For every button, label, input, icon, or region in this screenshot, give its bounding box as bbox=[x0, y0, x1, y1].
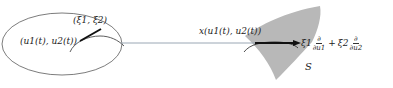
surface-name-text: S bbox=[305, 61, 312, 72]
domain-vector-text: (ξ1, ξ2) bbox=[73, 15, 107, 25]
tangent-vector-diagram: (u1(t), u2(t)) (ξ1, ξ2) x(u1(t), u2(t)) … bbox=[0, 0, 393, 88]
partial-u1-den: ∂u1 bbox=[313, 44, 326, 52]
domain-point-text: (u1(t), u2(t)) bbox=[20, 36, 77, 46]
domain-tangent-vector bbox=[80, 29, 101, 41]
surface-point-text: x(u1(t), u2(t)) bbox=[199, 26, 261, 36]
surface-point-label: x(u1(t), u2(t)) bbox=[199, 27, 261, 36]
partial-u2-den: ∂u2 bbox=[350, 44, 363, 52]
partial-u2: ∂ ∂u2 bbox=[350, 35, 363, 52]
coef-1: ξ1 bbox=[301, 39, 312, 48]
surface-vector-label: ξ1 ∂ ∂u1 + ξ2 ∂ ∂u2 bbox=[301, 35, 363, 52]
plus-operator: + bbox=[328, 39, 336, 48]
coef-2: ξ2 bbox=[338, 39, 349, 48]
partial-u1: ∂ ∂u1 bbox=[313, 35, 326, 52]
partial-u2-num: ∂ bbox=[353, 35, 359, 44]
surface-name-label: S bbox=[305, 62, 312, 72]
domain-vector-label: (ξ1, ξ2) bbox=[73, 16, 107, 25]
domain-curve bbox=[70, 36, 124, 52]
partial-u1-num: ∂ bbox=[316, 35, 322, 44]
domain-point-label: (u1(t), u2(t)) bbox=[20, 37, 77, 46]
